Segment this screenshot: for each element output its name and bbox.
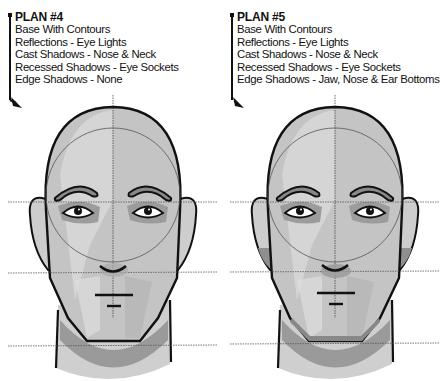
plan-4-panel: PLAN #4 Base With Contours Reflections -… — [0, 0, 222, 381]
down-arrow-icon — [230, 13, 244, 108]
head-diagram-plan-5 — [222, 0, 445, 381]
head-diagram-plan-4 — [0, 0, 222, 381]
down-arrow-icon — [8, 13, 22, 108]
plan-5-panel: PLAN #5 Base With Contours Reflections -… — [222, 0, 445, 381]
